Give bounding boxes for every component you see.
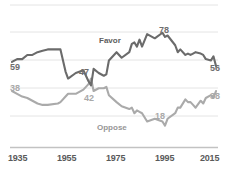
xtick-1995: 1995 (155, 154, 174, 163)
annotation-oppose-cross: 42 (84, 94, 94, 103)
xtick-1955: 1955 (57, 154, 76, 163)
xtick-2015: 2015 (200, 154, 219, 163)
series-label-oppose: Oppose (97, 124, 127, 132)
annotation-favor-cross: 47 (79, 68, 89, 77)
series-label-favor: Favor (99, 37, 121, 45)
annotation-oppose-min: 18 (155, 112, 165, 121)
annotation-oppose-start: 38 (10, 84, 20, 93)
series-line-oppose (12, 79, 216, 126)
chart-container: 59 47 78 56 38 42 18 38 Favor Oppose 193… (0, 0, 228, 172)
annotation-oppose-end: 38 (210, 92, 220, 101)
xtick-1935: 1935 (8, 154, 27, 163)
annotation-favor-peak: 78 (159, 26, 169, 35)
annotation-favor-start: 59 (10, 63, 20, 72)
xtick-1975: 1975 (106, 154, 125, 163)
line-chart-plot (0, 0, 228, 172)
annotation-favor-end: 56 (210, 64, 220, 73)
